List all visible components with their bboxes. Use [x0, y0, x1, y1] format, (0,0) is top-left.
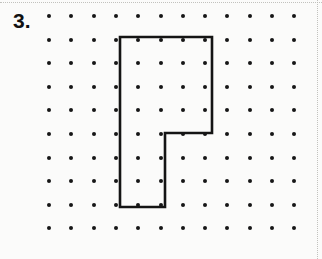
worksheet-page: 3. — [0, 0, 322, 259]
p-shaped-polygon — [120, 37, 212, 207]
shape-canvas — [0, 0, 322, 259]
